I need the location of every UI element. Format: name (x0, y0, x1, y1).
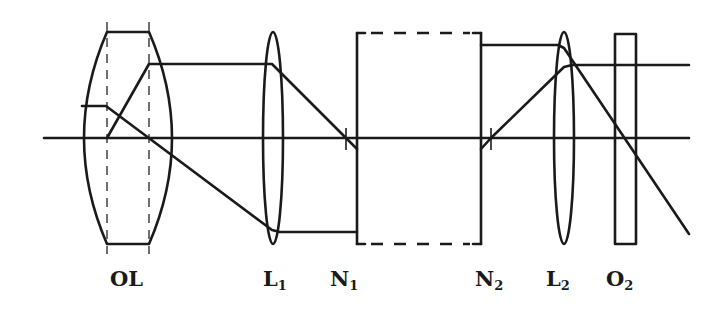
label-n2: N2 (475, 266, 503, 293)
label-ol: OL (110, 266, 143, 293)
label-o2: O2 (606, 266, 633, 293)
label-l2: L2 (546, 266, 570, 293)
label-n1: N1 (330, 266, 358, 293)
label-l1: L1 (263, 266, 287, 293)
